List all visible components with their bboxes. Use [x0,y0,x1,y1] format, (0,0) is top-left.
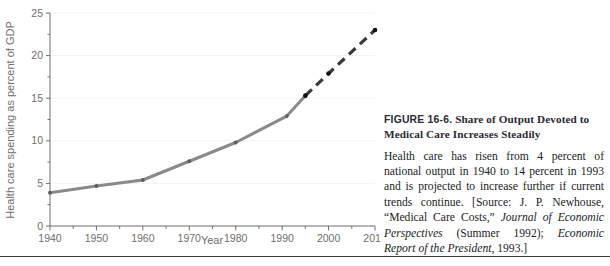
y-axis-tick-label: 5 [37,177,43,189]
data-point-markers [48,28,377,195]
actual-line [50,96,305,193]
x-axis-tick-label: 1970 [178,232,202,244]
y-axis-tick-label: 10 [31,134,43,146]
gridlines [50,13,375,183]
data-point-marker [187,159,191,163]
caption-body-post: , 1993.] [491,242,527,255]
x-axis-tick-label: 1940 [38,232,62,244]
x-axis-tick-label: 1990 [270,232,294,244]
data-point-marker [285,114,289,118]
y-axis-tick-label: 15 [31,92,43,104]
y-axis-tick-label: 0 [37,220,43,232]
data-point-marker [95,184,99,188]
x-axis-tick-label: 2010 [363,232,380,244]
y-axis-tick-labels: 0510152025 [31,7,43,232]
x-axis-title: Year [201,234,224,246]
caption-body-mid: (Summer 1992); [443,227,558,240]
data-point-marker [326,71,331,76]
x-axis-tick-label: 1960 [131,232,155,244]
data-point-marker [141,178,145,182]
data-series [50,30,375,193]
y-axis-tick-label: 25 [31,7,43,19]
x-axis-tick-label: 1950 [85,232,109,244]
x-axis-tick-label: 1980 [224,232,248,244]
axis-ticks [46,13,375,231]
data-point-marker [48,191,52,195]
figure-container: 19401950196019701980199020002010 0510152… [0,0,610,266]
line-chart: 19401950196019701980199020002010 0510152… [0,0,380,250]
bottom-divider [0,256,610,257]
y-axis-tick-label: 20 [31,49,43,61]
data-point-marker [303,93,308,98]
caption-body: Health care has risen from 4 percent of … [384,149,604,257]
axes [50,13,375,226]
x-axis-tick-label: 2000 [317,232,341,244]
data-point-marker [234,141,238,145]
y-axis-title: Health care spending as percent of GDP [4,21,16,219]
figure-number: FIGURE 16-6. [384,114,452,125]
chart-panel: 19401950196019701980199020002010 0510152… [0,0,380,250]
caption-title: FIGURE 16-6. Share of Output Devoted to … [384,112,604,142]
projected-line [305,30,375,96]
caption-panel: FIGURE 16-6. Share of Output Devoted to … [384,112,604,256]
data-point-marker [373,28,378,33]
